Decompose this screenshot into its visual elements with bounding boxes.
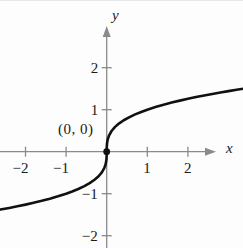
x-tick-label-1: 1 [143,161,151,176]
origin-point-annotation: (0, 0) [58,122,94,137]
cube-root-function-figure: −2−112 21−1−2 x y (0, 0) [0,0,243,248]
y-axis-arrowhead [103,26,111,37]
data-point-markers [103,148,110,155]
plot-canvas [0,0,243,248]
x-axis-label: x [226,141,233,156]
x-tick-label-−2: −2 [13,161,29,176]
x-tick-label-2: 2 [184,161,192,176]
x-axis-arrowhead [205,148,216,156]
origin-point [103,148,110,155]
y-tick-label-2: 2 [91,61,99,76]
x-tick-label-−1: −1 [53,161,69,176]
y-tick-label-1: 1 [91,103,99,118]
y-axis-label: y [112,8,119,23]
y-tick-label-−1: −1 [82,187,98,202]
y-tick-label-−2: −2 [82,229,98,244]
